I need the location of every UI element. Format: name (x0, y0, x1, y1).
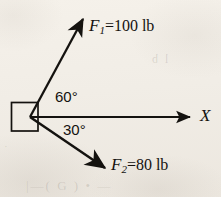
force-unit-f1: lb (142, 17, 154, 34)
force-symbol-f2: F (111, 155, 121, 174)
force-magnitude-f1: 100 (114, 17, 138, 34)
force-label-f1: F1=100 lb (89, 17, 154, 36)
x-axis-label: X (200, 107, 210, 124)
force-magnitude-f2: 80 (136, 156, 152, 173)
angle-label-30: 30° (63, 122, 86, 137)
force-symbol-f1: F (89, 16, 99, 35)
equals-sign-f1: = (105, 17, 114, 34)
force-vector-figure: |—( G ) • — l b · F1=100 lb F2=80 lb 60° (0, 0, 221, 197)
equals-sign-f2: = (127, 156, 136, 173)
force-unit-f2: lb (156, 156, 168, 173)
angle-label-60: 60° (55, 89, 78, 104)
force-label-f2: F2=80 lb (111, 156, 168, 175)
